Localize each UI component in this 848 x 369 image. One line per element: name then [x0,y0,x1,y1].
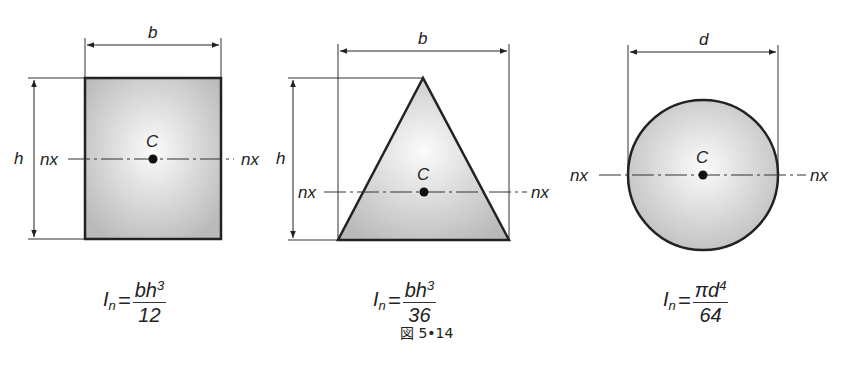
axis-label-left: nx [298,183,316,202]
figure-caption: 図 5•14 [400,322,453,342]
fraction: bh3 36 [403,275,436,326]
centroid-dot [149,155,158,164]
equals-sign: = [118,288,131,314]
centroid-dot [699,171,708,180]
axis-label-left: nx [570,166,588,185]
fraction: bh3 12 [133,275,166,326]
triangle-shape [338,78,509,240]
fraction: πd4 64 [693,275,729,326]
width-label: b [148,23,157,42]
rectangle-section: b h C nx nx [14,23,259,239]
exponent: 4 [719,278,726,293]
height-label: h [276,149,285,168]
axis-label-right: nx [241,150,259,169]
numerator: bh [405,279,427,301]
diameter-label: d [699,30,709,49]
axis-label-right: nx [531,183,549,202]
equals-sign: = [388,288,401,314]
centroid-label: C [417,165,430,184]
denominator: 64 [699,303,721,326]
triangle-formula: In = bh3 36 [373,275,436,326]
centroid-dot [420,188,429,197]
formula-subscript: n [669,298,676,313]
centroid-label: C [696,148,709,167]
circle-formula: In = πd4 64 [663,275,728,326]
numerator: bh [135,279,157,301]
centroid-label: C [146,132,159,151]
exponent: 3 [157,278,164,293]
height-label: h [14,149,23,168]
circle-section: d C nx nx [570,30,828,250]
equals-sign: = [678,288,691,314]
width-label: b [418,29,427,48]
numerator: πd [695,279,720,301]
axis-label-left: nx [40,150,58,169]
axis-label-right: nx [810,166,828,185]
triangle-section: b h C nx nx [276,29,549,240]
exponent: 3 [427,278,434,293]
formula-subscript: n [379,298,386,313]
denominator: 12 [138,303,160,326]
rectangle-formula: In = bh3 12 [103,275,166,326]
formula-subscript: n [109,298,116,313]
